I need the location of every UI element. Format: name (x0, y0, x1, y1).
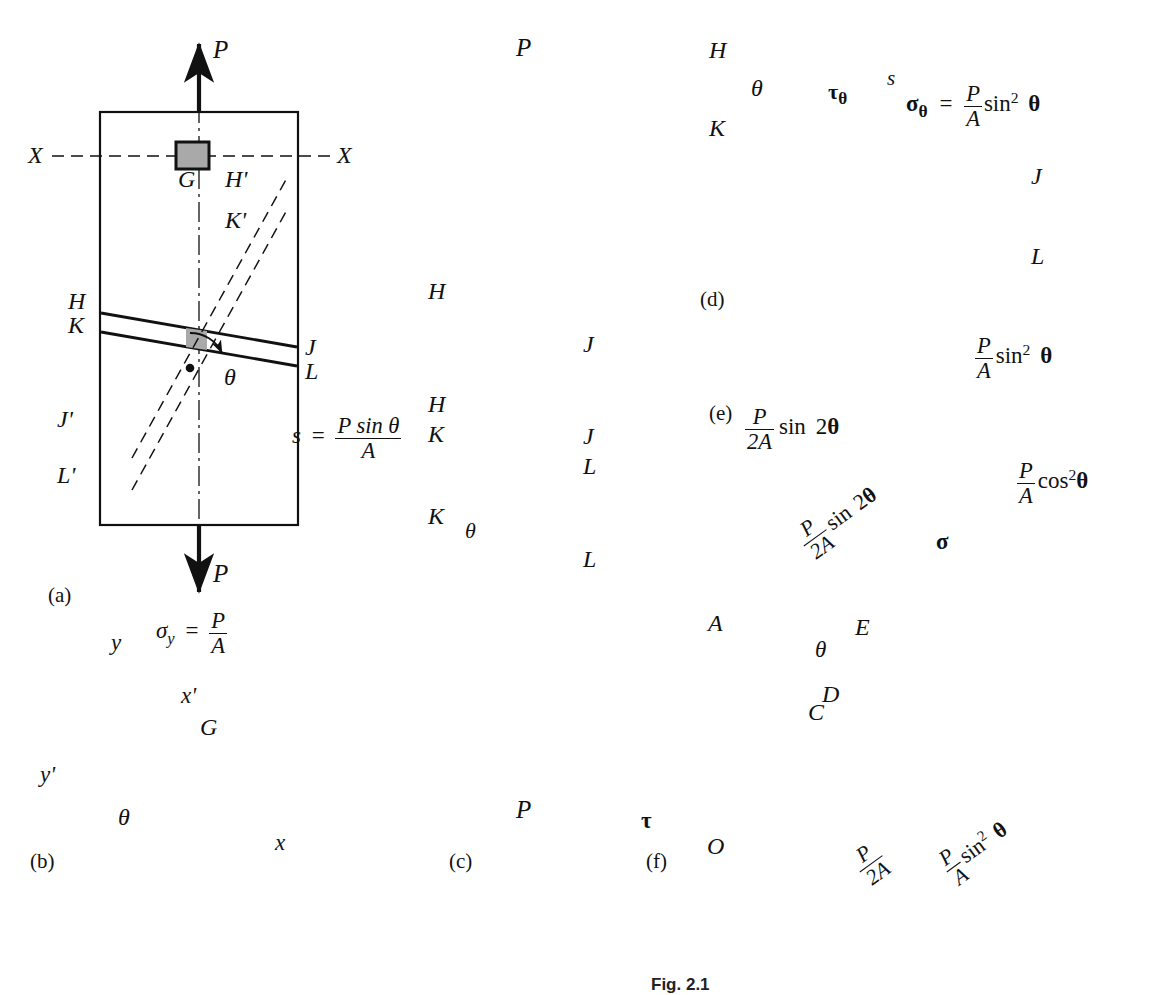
label-tau-theta-d: τθ (828, 79, 847, 109)
sigma-den-d: A (964, 107, 982, 131)
label-k-block2-c: K (428, 421, 444, 448)
panel-label-a: (a) (48, 583, 71, 608)
sigma-symbol-b: σ (156, 618, 167, 643)
label-s-resultant-d: s (887, 66, 895, 91)
label-k-prime-a: K' (225, 207, 246, 234)
angle-var-d: θ (1028, 91, 1040, 116)
shear-den-e: 2A (745, 430, 774, 454)
axial-num-e: P (1017, 459, 1035, 484)
panel-label-e: (e) (709, 401, 732, 426)
element-sliver-a (186, 328, 207, 350)
shear-trig-e: sin (779, 414, 806, 439)
trig-exp-d: 2 (1011, 89, 1019, 106)
label-normal-stress-e: P A sin2 θ (975, 334, 1052, 382)
label-theta-d: θ (751, 75, 763, 102)
sigma-symbol-d: σ (906, 91, 919, 116)
label-l-a: L (305, 358, 318, 385)
shear-angle-e: θ (827, 414, 839, 439)
sigma-den-b: A (209, 634, 227, 658)
tau-subscript-d: θ (838, 89, 847, 108)
label-j-block2-c: J (583, 423, 594, 450)
label-l-block3-c: L (583, 546, 596, 573)
panel-label-b: (b) (30, 849, 55, 874)
equals-b: = (185, 618, 198, 643)
panel-label-f: (f) (646, 849, 667, 874)
equals-d: = (939, 91, 952, 116)
label-axis-y-prime-b: y' (40, 762, 55, 788)
label-point-a-f: A (708, 610, 723, 637)
label-theta-a: θ (224, 364, 236, 391)
label-k-d: K (709, 115, 725, 142)
label-k-a: K (68, 312, 84, 339)
label-sigma-y-equation-b: σy = P A (156, 609, 227, 657)
s-num-c: P sin θ (335, 414, 401, 439)
angle-vertex-a (186, 364, 195, 373)
normal-angle-e: θ (1040, 343, 1052, 368)
label-h-a: H (68, 288, 85, 315)
label-k-block3-c: K (428, 503, 444, 530)
label-h-prime-a: H' (225, 166, 247, 193)
label-s-equation-c: s = P sin θ A (292, 414, 401, 462)
normal-num-e: P (975, 334, 993, 359)
axial-den-e: A (1017, 484, 1035, 508)
label-point-c-f: C (808, 699, 824, 726)
label-force-bottom-a: P (213, 560, 228, 588)
panel-label-c: (c) (449, 849, 472, 874)
label-axis-y-b: y (111, 630, 121, 656)
normal-exp-e: 2 (1023, 341, 1031, 358)
label-h-block2-c: H (428, 391, 445, 418)
label-theta-f: θ (815, 637, 826, 663)
s-symbol-c: s (292, 423, 301, 448)
label-h-block1-c: H (428, 278, 445, 305)
sigma-subscript-b: y (167, 629, 174, 648)
sigma-num-d: P (964, 82, 982, 107)
label-theta-c: θ (465, 518, 476, 544)
label-sigma-axis-f: σ (936, 529, 949, 555)
label-l-d: L (1031, 243, 1044, 270)
normal-trig-e: sin (996, 343, 1023, 368)
label-point-d-f: D (822, 681, 839, 708)
label-l-prime-a: L' (57, 462, 75, 489)
sigma-subscript-d: θ (919, 101, 928, 121)
label-shear-stress-e: P 2A sin 2θ (745, 405, 839, 453)
label-point-o-f: O (707, 833, 724, 860)
label-theta-b: θ (118, 804, 130, 831)
label-axis-x-b: x (275, 830, 285, 856)
label-point-e-f: E (855, 614, 870, 641)
label-axial-stress-e: P A cos2θ (1017, 459, 1088, 507)
label-j-prime-a: J' (57, 406, 73, 433)
axial-angle-e: θ (1076, 468, 1088, 493)
label-h-d: H (709, 37, 726, 64)
label-section-left-a: X (28, 142, 43, 169)
label-j-a: J (305, 334, 316, 361)
label-tau-axis-f: τ (641, 808, 652, 834)
shear-num-e: P (745, 405, 774, 430)
shear-factor-e: 2 (816, 414, 828, 439)
label-j-block1-c: J (583, 331, 594, 358)
panel-label-d: (d) (700, 287, 725, 312)
axial-trig-e: cos (1038, 468, 1069, 493)
label-force-top-a: P (213, 36, 228, 64)
equals-c: = (312, 423, 325, 448)
label-l-block2-c: L (583, 453, 596, 480)
label-axis-x-prime-b: x' (181, 683, 196, 709)
label-element-g-b: G (200, 714, 217, 741)
tau-symbol-d: τ (828, 79, 838, 104)
label-sigma-theta-equation-d: σθ = P A sin2 θ (906, 82, 1040, 130)
figure-caption: Fig. 2.1 (651, 975, 710, 995)
s-den-c: A (335, 439, 401, 463)
label-j-d: J (1031, 163, 1042, 190)
trig-d: sin (984, 91, 1011, 116)
element-square-g (176, 142, 209, 169)
sigma-num-b: P (209, 609, 227, 634)
label-force-bottom-c: P (516, 796, 531, 824)
label-force-top-c: P (516, 34, 531, 62)
normal-den-e: A (975, 359, 993, 383)
label-section-right-a: X (337, 142, 352, 169)
label-element-g-a: G (178, 166, 195, 193)
